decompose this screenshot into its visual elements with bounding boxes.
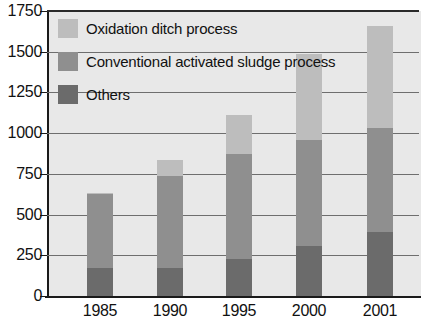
bar-segment-conventional xyxy=(367,128,393,231)
bar-segment-others xyxy=(367,232,393,296)
legend: Oxidation ditch process Conventional act… xyxy=(58,18,335,117)
bar-segment-oxidation xyxy=(157,160,183,175)
bar-1995 xyxy=(226,115,252,296)
x-tick-label-1995: 1995 xyxy=(204,303,274,319)
bar-1990 xyxy=(157,160,183,296)
x-tick-label-1985: 1985 xyxy=(65,303,135,319)
bar-segment-others xyxy=(157,268,183,297)
y-tick-label: 1750 xyxy=(0,3,42,19)
bar-2001 xyxy=(367,26,393,296)
bar-segment-others xyxy=(296,246,322,296)
x-tick-label-1990: 1990 xyxy=(135,303,205,319)
y-tick-label: 250 xyxy=(0,247,42,263)
legend-label: Oxidation ditch process xyxy=(86,21,237,36)
y-tick-label: 1000 xyxy=(0,125,42,141)
x-axis-line xyxy=(45,296,421,298)
bar-segment-others xyxy=(226,259,252,296)
bar-1985 xyxy=(87,193,113,296)
bar-chart: 02505007501000125015001750 1985199019952… xyxy=(0,0,423,323)
legend-item: Oxidation ditch process xyxy=(58,18,335,38)
legend-swatch-others-icon xyxy=(58,85,78,104)
bar-segment-conventional xyxy=(157,176,183,268)
bar-segment-conventional xyxy=(296,140,322,247)
bar-segment-others xyxy=(87,268,113,296)
y-tick-label: 1250 xyxy=(0,84,42,100)
legend-swatch-conventional-icon xyxy=(58,52,78,71)
bar-segment-oxidation xyxy=(226,115,252,154)
legend-swatch-oxidation-icon xyxy=(58,19,78,38)
y-tick-label: 1500 xyxy=(0,44,42,60)
legend-item: Others xyxy=(58,84,335,104)
legend-label: Others xyxy=(86,87,130,102)
bar-segment-conventional xyxy=(87,194,113,268)
legend-item: Conventional activated sludge process xyxy=(58,51,335,71)
bar-segment-oxidation xyxy=(367,26,393,129)
x-tick-label-2001: 2001 xyxy=(345,303,415,319)
y-tick-label: 0 xyxy=(0,288,42,304)
y-tick-label: 500 xyxy=(0,207,42,223)
bar-segment-conventional xyxy=(226,154,252,258)
legend-label: Conventional activated sludge process xyxy=(86,54,335,69)
x-tick-label-2000: 2000 xyxy=(274,303,344,319)
y-tick-label: 750 xyxy=(0,166,42,182)
